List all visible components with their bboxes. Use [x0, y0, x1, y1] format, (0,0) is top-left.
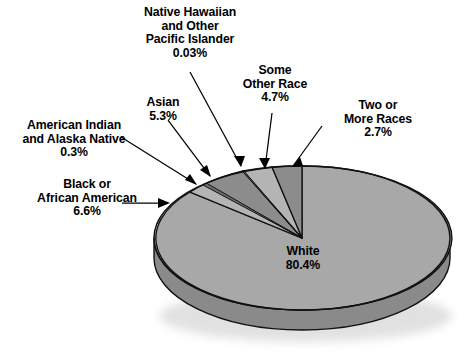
label-american-indian-and-alaska-native: American Indian and Alaska Native 0.3% — [3, 119, 145, 160]
label-sor-value: 4.7% — [229, 91, 321, 105]
label-aian-line1: American Indian — [3, 119, 145, 133]
label-two-line2: More Races — [330, 113, 426, 127]
label-white-value: 80.4% — [258, 259, 348, 273]
pie-chart: Native Hawaiian and Other Pacific Island… — [0, 0, 471, 353]
label-two-or-more-races: Two or More Races 2.7% — [330, 99, 426, 140]
label-asian-line1: Asian — [133, 96, 193, 110]
leader-line-two-or-more-races — [293, 126, 322, 166]
label-sor-line1: Some — [229, 64, 321, 78]
label-white: White 80.4% — [258, 245, 348, 272]
label-aian-line2: and Alaska Native — [3, 133, 145, 147]
arrowhead-nhpi — [234, 156, 245, 167]
label-white-line1: White — [258, 245, 348, 259]
label-nhpi-value: 0.03% — [126, 47, 254, 61]
arrowhead-two-or-more-races — [292, 157, 303, 167]
label-black-line1: Black or — [7, 178, 167, 192]
label-nhpi-line1: Native Hawaiian — [126, 6, 254, 20]
arrowhead-aian — [185, 174, 197, 185]
label-two-line1: Two or — [330, 99, 426, 113]
label-aian-value: 0.3% — [3, 146, 145, 160]
pie-slices — [154, 166, 452, 310]
label-black-or-african-american: Black or African American 6.6% — [7, 178, 167, 219]
arrowhead-asian — [200, 165, 211, 177]
label-black-value: 6.6% — [7, 205, 167, 219]
label-two-value: 2.7% — [330, 126, 426, 140]
label-sor-line2: Other Race — [229, 78, 321, 92]
label-nhpi-line3: Pacific Islander — [126, 33, 254, 47]
label-some-other-race: Some Other Race 4.7% — [229, 64, 321, 105]
label-black-line2: African American — [7, 192, 167, 206]
label-native-hawaiian-and-other-pacific-islander: Native Hawaiian and Other Pacific Island… — [126, 6, 254, 60]
label-nhpi-line2: and Other — [126, 20, 254, 34]
